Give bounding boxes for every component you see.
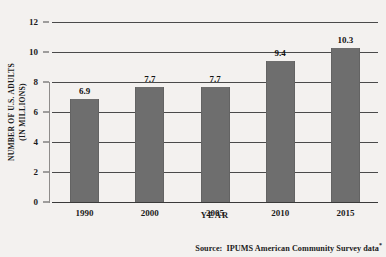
source-note: Source: IPUMS American Community Survey … (195, 242, 382, 253)
gridline (52, 52, 378, 53)
y-tick-mark (43, 142, 49, 143)
source-prefix: Source: (195, 244, 222, 253)
x-axis-title: YEAR (52, 211, 378, 220)
y-tick-mark (43, 112, 49, 113)
bar (70, 99, 99, 203)
y-axis-line (49, 82, 50, 203)
y-tick-mark (43, 202, 49, 203)
bar-value-label: 6.9 (60, 86, 110, 96)
bar-value-label: 7.7 (125, 74, 175, 84)
gridline (52, 202, 378, 203)
y-tick-label: 4 (0, 137, 38, 147)
y-tick-label: 12 (0, 17, 38, 27)
y-tick-label: 0 (0, 197, 38, 207)
bar (331, 48, 360, 203)
bar-value-label: 10.3 (320, 35, 370, 45)
y-tick-label: 6 (0, 107, 38, 117)
y-tick-label: 2 (0, 167, 38, 177)
y-tick-mark (43, 82, 49, 83)
y-tick-mark (43, 172, 49, 173)
bar-value-label: 7.7 (190, 74, 240, 84)
source-footnote-marker: * (379, 242, 382, 248)
bar (135, 87, 164, 203)
source-text: IPUMS American Community Survey data (227, 244, 379, 253)
bar (266, 61, 295, 202)
bar (201, 87, 230, 203)
y-tick-mark (43, 22, 49, 23)
plot-area: 024681012 6.97.77.79.410.3 1990200020052… (52, 22, 378, 202)
bar-value-label: 9.4 (255, 48, 305, 58)
y-tick-label: 10 (0, 47, 38, 57)
y-tick-mark (43, 52, 49, 53)
bar-chart: NUMBER OF U.S. ADULTS (IN MILLIONS) 0246… (0, 0, 386, 257)
gridline (52, 22, 378, 23)
y-tick-label: 8 (0, 77, 38, 87)
